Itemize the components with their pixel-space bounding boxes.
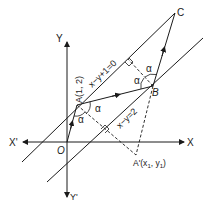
line-x-minus-y-eq-2 bbox=[47, 38, 203, 182]
diagram: Y Y' X X' O C B A(1, 2) A'(x1, y1) x−y+1… bbox=[0, 0, 207, 202]
angle-alpha-a-right: α bbox=[95, 103, 101, 114]
angle-arc-b-top bbox=[145, 74, 156, 77]
line2-equation-label: x−y=2 bbox=[114, 106, 139, 130]
a-prime-label: A'(x1, y1) bbox=[133, 158, 166, 169]
angle-alpha-b-left: α bbox=[134, 75, 140, 86]
point-b-label: B bbox=[152, 87, 159, 98]
y-axis-label: Y bbox=[56, 33, 63, 44]
dashed-b-to-a-prime bbox=[136, 86, 153, 155]
line1-equation-label: x−y+1=0 bbox=[86, 58, 118, 89]
angle-arc-b-left bbox=[141, 78, 144, 89]
x-axis-label: X bbox=[187, 137, 194, 148]
x-neg-axis-label: X' bbox=[9, 137, 18, 148]
y-neg-axis-label: Y' bbox=[70, 192, 78, 202]
angle-alpha-a-left: α bbox=[78, 114, 84, 125]
right-angle-marker-top bbox=[125, 58, 133, 66]
origin-label: O bbox=[57, 145, 65, 156]
point-a-label: A(1, 2) bbox=[74, 76, 84, 103]
angle-arc-a-right bbox=[86, 102, 90, 114]
point-c-label: C bbox=[177, 7, 184, 18]
angle-alpha-b-top: α bbox=[146, 63, 152, 74]
